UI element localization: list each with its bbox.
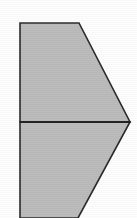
geometric-figure-svg [0,0,137,218]
figure-canvas: Right-pointing chevron polygon divided i… [0,0,137,218]
